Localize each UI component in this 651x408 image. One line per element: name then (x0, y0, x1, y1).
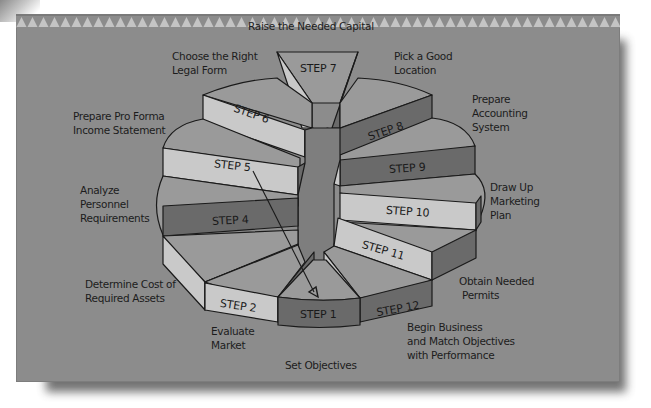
step-9-label: STEP 9 (389, 161, 427, 177)
step-12-description: Begin Business and Match Objectives with… (407, 321, 518, 361)
step-2-description: Evaluate Market (211, 325, 258, 351)
step-4-description: Analyze Personnel Requirements (80, 184, 149, 224)
business-plan-wheel: STEP 7 STEP 6 STEP 8 STEP 5 STEP 9 STEP … (0, 0, 651, 408)
step-11-description: Obtain Needed Permits (459, 275, 537, 301)
step-7-label: STEP 7 (300, 62, 337, 75)
step-1-description: Set Objectives (285, 359, 357, 371)
step-9-description: Prepare Accounting System (472, 93, 531, 133)
step-7-description: Raise the Needed Capital (248, 20, 374, 32)
step-10-description: Draw Up Marketing Plan (490, 181, 543, 221)
step-8-description: Pick a Good Location (394, 50, 455, 76)
step-3-description: Determine Cost of Required Assets (85, 278, 179, 304)
step-1-label: STEP 1 (300, 308, 337, 321)
step-5-description: Prepare Pro Forma Income Statement (73, 110, 168, 136)
step-4-label: STEP 4 (212, 213, 249, 228)
step-6-description: Choose the Right Legal Form (172, 50, 261, 76)
